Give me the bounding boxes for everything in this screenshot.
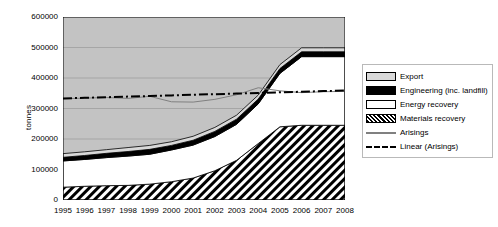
legend-item[interactable]: Energy recovery <box>366 97 489 111</box>
x-tick-label: 2004 <box>247 207 269 215</box>
x-tick-label: 2002 <box>204 207 226 215</box>
x-tick-label: 1995 <box>52 207 74 215</box>
y-tick-label: 500000 <box>6 44 58 52</box>
legend-item-label: Materials recovery <box>400 114 465 123</box>
y-tick-label: 300000 <box>6 105 58 113</box>
legend-item-label: Export <box>400 72 423 81</box>
swatch-materials-recovery <box>366 114 396 123</box>
y-tick-label: 0 <box>6 196 58 204</box>
chart-legend: ExportEngineering (inc. landfill)Energy … <box>362 64 493 158</box>
x-axis-tick-labels: 1995199619971998199920002001200220032004… <box>63 203 345 221</box>
chart-svg <box>63 17 345 200</box>
legend-item-label: Linear (Arisings) <box>400 142 458 151</box>
line-linear-arisings <box>366 142 396 151</box>
legend-item[interactable]: Arisings <box>366 125 489 139</box>
swatch-engineering <box>366 86 396 95</box>
x-tick-label: 1998 <box>117 207 139 215</box>
x-tick-label: 2001 <box>182 207 204 215</box>
legend-item-label: Energy recovery <box>400 100 458 109</box>
x-tick-label: 2006 <box>291 207 313 215</box>
x-tick-label: 1997 <box>95 207 117 215</box>
chart-figure: tonnes 010000020000030000040000050000060… <box>0 0 498 227</box>
x-tick-label: 2003 <box>226 207 248 215</box>
legend-item[interactable]: Materials recovery <box>366 111 489 125</box>
swatch-export <box>366 72 396 81</box>
y-tick-label: 100000 <box>6 166 58 174</box>
legend-item-label: Arisings <box>400 128 428 137</box>
y-tick-label: 400000 <box>6 74 58 82</box>
x-tick-label: 2005 <box>269 207 291 215</box>
x-tick-label: 2000 <box>160 207 182 215</box>
legend-item-label: Engineering (inc. landfill) <box>400 86 488 95</box>
x-tick-label: 2007 <box>312 207 334 215</box>
legend-item[interactable]: Engineering (inc. landfill) <box>366 83 489 97</box>
legend-item[interactable]: Export <box>366 69 489 83</box>
x-tick-label: 2008 <box>334 207 356 215</box>
y-tick-label: 200000 <box>6 135 58 143</box>
y-tick-label: 600000 <box>6 13 58 21</box>
x-tick-label: 1996 <box>74 207 96 215</box>
legend-item[interactable]: Linear (Arisings) <box>366 139 489 153</box>
swatch-energy-recovery <box>366 100 396 109</box>
plot-area <box>63 17 345 200</box>
x-tick-label: 1999 <box>139 207 161 215</box>
y-axis-tick-labels: 0100000200000300000400000500000600000 <box>0 0 58 227</box>
line-arisings <box>366 128 396 137</box>
